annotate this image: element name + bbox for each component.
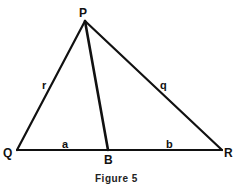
vertex-label-p: P — [79, 6, 87, 20]
vertex-label-q: Q — [3, 146, 12, 160]
side-label-q: q — [160, 79, 167, 91]
figure-caption: Figure 5 — [95, 173, 138, 184]
vertex-label-b: B — [104, 153, 113, 167]
triangle-diagram: P Q R B r q a b Figure 5 — [0, 0, 235, 185]
side-label-a: a — [62, 138, 69, 150]
side-pq — [17, 21, 85, 150]
vertex-label-r: R — [224, 146, 233, 160]
side-label-b: b — [166, 138, 173, 150]
side-label-r: r — [42, 79, 47, 91]
